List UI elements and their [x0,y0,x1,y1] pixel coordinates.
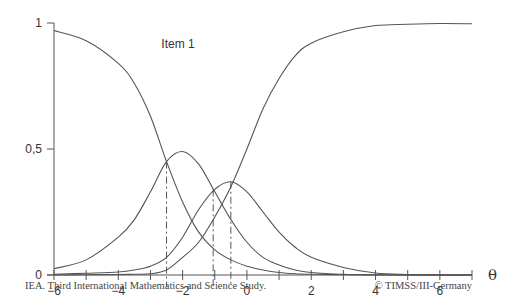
chart-title: Item 1 [161,37,195,51]
footer-source: IEA. Third International Mathematics and… [25,280,266,291]
x-tick-label: 2 [308,284,315,298]
icc-chart: 00,51−6−4−20246 Item 1 θ [0,0,506,298]
chart-axes: 00,51−6−4−20246 [25,16,472,298]
curve-category-1 [54,151,472,275]
y-tick-label: 1 [35,16,42,30]
footer-copyright: © TIMSS/III-Germany [375,280,472,291]
x-axis-label: θ [488,266,497,284]
chart-curves [54,23,472,275]
chart-threshold-lines [167,162,231,287]
curve-category-2 [54,182,472,275]
y-tick-label: 0,5 [25,142,42,156]
